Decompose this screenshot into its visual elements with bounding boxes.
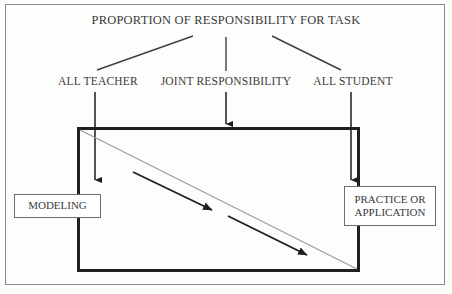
figure-title: PROPORTION OF RESPONSIBILITY FOR TASK xyxy=(0,14,452,27)
branch-line-right xyxy=(272,36,341,70)
diagram-graphics xyxy=(0,0,452,294)
box-practice-label: PRACTICE OR APPLICATION xyxy=(354,193,425,220)
label-all-teacher: ALL TEACHER xyxy=(52,75,144,87)
box-practice-or-application: PRACTICE OR APPLICATION xyxy=(344,186,436,226)
responsibility-shift-arrow-lower xyxy=(228,216,307,255)
gradient-diagonal-line xyxy=(80,130,357,269)
branch-line-left xyxy=(97,36,193,70)
figure-canvas: PROPORTION OF RESPONSIBILITY FOR TASK AL… xyxy=(0,0,452,294)
box-modeling: MODELING xyxy=(14,194,101,218)
label-all-student: ALL STUDENT xyxy=(306,75,400,87)
box-practice-label-line1: PRACTICE OR xyxy=(354,193,425,205)
label-joint-responsibility: JOINT RESPONSIBILITY xyxy=(150,75,302,87)
box-modeling-label: MODELING xyxy=(28,199,87,212)
box-practice-label-line2: APPLICATION xyxy=(355,206,426,218)
responsibility-shift-arrow-upper xyxy=(133,172,212,210)
